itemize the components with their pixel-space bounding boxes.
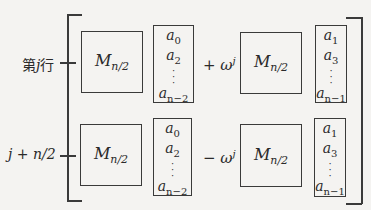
vertical-ellipsis: ··· <box>328 161 331 179</box>
left-bracket-vertical <box>67 14 69 201</box>
matrix-block-top-left: Mn/2 <box>81 31 143 93</box>
matrix-block-bottom-left: Mn/2 <box>80 124 142 186</box>
left-bracket-top-arm <box>67 14 82 16</box>
vector-entry: an−2 <box>158 179 188 199</box>
row-label-j: 第j行 <box>22 54 54 74</box>
right-bracket-vertical <box>361 17 363 204</box>
row-label-bottom-text: j + n/2 <box>8 146 56 162</box>
row-label-j-plus-n-half: j + n/2 <box>8 146 56 162</box>
left-bracket-bottom-arm <box>67 200 82 202</box>
operator-plus-omega: + ωj <box>203 55 236 74</box>
vertical-ellipsis: ··· <box>172 68 175 86</box>
right-bracket-bottom-arm <box>346 203 362 205</box>
vector-entry: an−1 <box>315 179 345 199</box>
vector-even-bottom: a0 a2 ··· an−2 <box>153 118 192 196</box>
vector-entry: a1 <box>323 121 338 141</box>
operator-minus-omega: − ωj <box>203 148 236 167</box>
row-pointer-top <box>60 62 76 64</box>
row-label-prefix: 第 <box>22 57 36 73</box>
row-label-suffix: 行 <box>40 57 54 73</box>
matrix-label: Mn/2 <box>241 52 301 74</box>
matrix-label: Mn/2 <box>81 144 141 166</box>
vector-even-top: a0 a2 ··· an−2 <box>153 25 194 103</box>
vertical-ellipsis: ··· <box>171 161 174 179</box>
vertical-ellipsis: ··· <box>329 68 332 86</box>
vector-entry: an−2 <box>159 86 189 106</box>
vector-entry: a0 <box>166 28 181 48</box>
vector-entry: an−1 <box>316 86 346 106</box>
matrix-block-bottom-right: Mn/2 <box>240 124 302 187</box>
right-bracket-top-arm <box>346 17 362 19</box>
row-pointer-bottom <box>60 155 76 157</box>
matrix-block-top-right: Mn/2 <box>240 32 302 94</box>
matrix-label: Mn/2 <box>82 51 142 73</box>
vector-odd-top: a1 a3 ··· an−1 <box>315 25 347 103</box>
vector-entry: a1 <box>324 28 339 48</box>
matrix-label: Mn/2 <box>241 144 301 166</box>
vector-odd-bottom: a1 a3 ··· an−1 <box>314 118 346 197</box>
vector-entry: a0 <box>165 121 180 141</box>
